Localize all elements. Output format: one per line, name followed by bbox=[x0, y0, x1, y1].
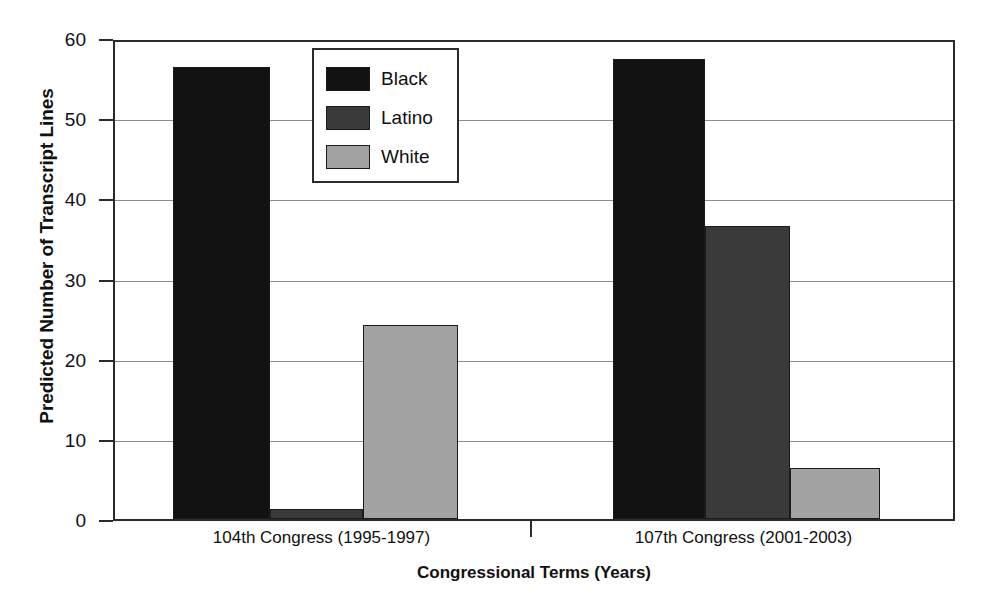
bar-black-104th bbox=[173, 67, 270, 519]
legend-label-black: Black bbox=[381, 68, 427, 90]
y-tick-mark-60 bbox=[99, 39, 113, 41]
bar-white-107th bbox=[790, 468, 880, 519]
legend-label-white: White bbox=[381, 146, 430, 168]
legend-entry-latino: Latino bbox=[326, 98, 457, 137]
legend-swatch-latino bbox=[326, 106, 370, 130]
y-tick-label-40: 40 bbox=[26, 189, 86, 211]
y-tick-mark-40 bbox=[99, 199, 113, 201]
legend-entry-black: Black bbox=[326, 59, 457, 98]
plot-area bbox=[113, 40, 955, 521]
y-tick-label-20: 20 bbox=[26, 350, 86, 372]
y-tick-mark-30 bbox=[99, 280, 113, 282]
legend-entry-white: White bbox=[326, 137, 457, 176]
bar-black-107th bbox=[613, 59, 705, 519]
y-axis-title: Predicted Number of Transcript Lines bbox=[36, 11, 58, 501]
y-tick-label-30: 30 bbox=[26, 270, 86, 292]
y-tick-mark-50 bbox=[99, 119, 113, 121]
bar-white-104th bbox=[363, 325, 458, 519]
bar-chart: Predicted Number of Transcript Lines 60 … bbox=[0, 0, 982, 594]
y-tick-mark-20 bbox=[99, 360, 113, 362]
y-tick-label-60: 60 bbox=[26, 29, 86, 51]
y-tick-mark-10 bbox=[99, 440, 113, 442]
bar-latino-107th bbox=[705, 226, 790, 519]
legend-label-latino: Latino bbox=[381, 107, 433, 129]
y-tick-label-10: 10 bbox=[26, 430, 86, 452]
x-group-label-104th: 104th Congress (1995-1997) bbox=[113, 528, 530, 548]
legend-swatch-black bbox=[326, 67, 370, 91]
x-axis-title: Congressional Terms (Years) bbox=[113, 563, 955, 583]
legend: Black Latino White bbox=[312, 48, 459, 183]
legend-swatch-white bbox=[326, 145, 370, 169]
y-tick-label-0: 0 bbox=[26, 510, 86, 532]
y-tick-mark-0 bbox=[99, 520, 113, 522]
y-tick-label-50: 50 bbox=[26, 109, 86, 131]
bar-latino-104th bbox=[270, 509, 363, 519]
x-group-label-107th: 107th Congress (2001-2003) bbox=[532, 528, 955, 548]
